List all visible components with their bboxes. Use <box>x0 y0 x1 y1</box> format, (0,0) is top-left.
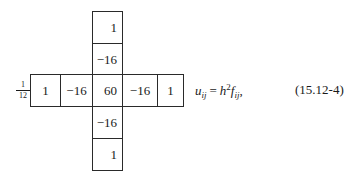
cell-value: −16 <box>66 84 86 97</box>
lhs-subscript: ij <box>202 90 207 100</box>
stencil-cell-left-inner: −16 <box>60 74 93 107</box>
equals-operator: = <box>207 83 220 98</box>
stencil-cell-bottom-outer: 1 <box>92 138 123 171</box>
cell-value: −16 <box>130 84 150 97</box>
fraction-denominator: 12 <box>16 91 30 100</box>
stencil-cell-right-outer: 1 <box>157 74 184 107</box>
stencil-cell-left-outer: 1 <box>30 74 61 107</box>
stencil-cell-bottom-inner: −16 <box>92 106 123 139</box>
stencil-cell-center: 60 <box>92 74 123 107</box>
equation: uij=h2fij, <box>195 82 243 100</box>
stencil-cell-top-outer: 1 <box>92 11 123 44</box>
stencil-cell-right-inner: −16 <box>122 74 158 107</box>
stencil-multiplier-fraction: 1 12 <box>16 81 30 100</box>
trailing-comma: , <box>240 83 243 98</box>
cell-value: −16 <box>97 53 117 66</box>
stencil-cell-top-inner: −16 <box>92 43 123 75</box>
cell-value: 60 <box>104 84 117 97</box>
cell-value: −16 <box>97 116 117 129</box>
cell-value: 1 <box>111 21 118 34</box>
cell-value: 1 <box>167 84 174 97</box>
equation-number: (15.12-4) <box>295 82 344 98</box>
cell-value: 1 <box>42 84 49 97</box>
fraction-numerator: 1 <box>16 81 30 91</box>
cell-value: 1 <box>111 148 118 161</box>
